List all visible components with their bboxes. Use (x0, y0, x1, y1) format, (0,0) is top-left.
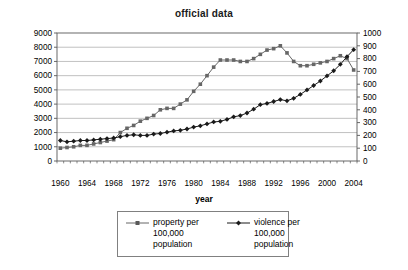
left-axis-tick-label: 0 (47, 157, 52, 166)
data-point-square (225, 58, 229, 62)
data-point-square (239, 60, 243, 64)
data-point-diamond (191, 125, 196, 130)
data-point-square (125, 126, 129, 130)
data-point-diamond (78, 138, 83, 143)
data-point-square (245, 60, 249, 64)
x-axis-tick-label: 2000 (318, 179, 337, 188)
x-axis-title: year (0, 194, 408, 204)
data-point-diamond (178, 128, 183, 133)
data-point-square (79, 144, 83, 148)
legend-label-violence: violence per 100,000 population (254, 217, 318, 250)
data-point-square (279, 44, 283, 48)
data-point-square (72, 145, 76, 149)
data-point-square (292, 60, 296, 64)
x-axis-tick-label: 1984 (211, 179, 230, 188)
data-point-diamond (85, 138, 90, 143)
right-axis-tick-label: 400 (363, 106, 377, 115)
left-axis-tick-label: 8000 (34, 43, 53, 52)
legend-label-property: property per 100,000 population (153, 217, 217, 250)
data-point-square (185, 98, 189, 102)
chart: official data 01000200030004000500060007… (0, 0, 408, 270)
data-point-square (139, 119, 143, 123)
right-axis-tick-label: 200 (363, 131, 377, 140)
x-axis-tick-label: 1964 (78, 179, 97, 188)
data-point-diamond (91, 137, 96, 142)
data-point-square (192, 90, 196, 94)
data-point-square (299, 64, 303, 68)
legend-entry-violence: violence per 100,000 population (227, 217, 318, 250)
x-axis-tick-label: 1960 (51, 179, 70, 188)
left-axis-tick-label: 5000 (34, 86, 53, 95)
data-point-diamond (198, 123, 203, 128)
right-axis-tick-label: 900 (363, 42, 377, 51)
left-axis-tick-label: 3000 (34, 114, 53, 123)
data-point-square (205, 74, 209, 78)
x-axis-tick-label: 1996 (291, 179, 310, 188)
data-point-diamond (245, 111, 250, 116)
data-point-diamond (145, 133, 150, 138)
data-point-diamond (131, 132, 136, 137)
data-point-diamond (138, 133, 143, 138)
data-point-diamond (205, 121, 210, 126)
data-point-diamond (265, 101, 270, 106)
x-axis-tick-label: 1972 (131, 179, 150, 188)
left-axis-tick-label: 1000 (34, 143, 53, 152)
data-point-square (325, 60, 329, 64)
x-axis-tick-label: 1988 (238, 179, 257, 188)
data-point-square (145, 117, 149, 121)
data-point-square (285, 51, 289, 55)
data-point-square (312, 62, 316, 66)
x-axis-tick-label: 1992 (265, 179, 284, 188)
data-point-square (159, 108, 163, 112)
right-axis-tick-label: 700 (363, 67, 377, 76)
data-point-diamond (71, 139, 76, 144)
data-point-square (219, 58, 223, 62)
right-axis-tick-label: 800 (363, 54, 377, 63)
property-series-marker-icon (126, 220, 149, 226)
right-axis-tick-label: 500 (363, 93, 377, 102)
left-axis-tick-label: 4000 (34, 100, 53, 109)
violence-series-marker-icon (227, 220, 250, 226)
data-point-diamond (211, 120, 216, 125)
data-point-square (319, 61, 323, 65)
data-point-square (265, 48, 269, 52)
data-point-diamond (271, 99, 276, 104)
data-point-square (132, 124, 136, 128)
left-axis-tick-label: 7000 (34, 57, 53, 66)
data-point-square (119, 131, 123, 135)
data-point-square (85, 144, 89, 148)
data-point-square (212, 65, 216, 69)
left-axis-tick-label: 2000 (34, 128, 53, 137)
data-point-square (165, 107, 169, 111)
x-axis-tick-label: 1980 (185, 179, 204, 188)
data-point-square (252, 57, 256, 61)
data-point-diamond (125, 133, 130, 138)
data-point-diamond (218, 119, 223, 124)
x-axis-tick-label: 2004 (345, 179, 364, 188)
legend-entry-property: property per 100,000 population (126, 217, 217, 250)
data-point-diamond (285, 98, 290, 103)
x-axis-tick-label: 1976 (158, 179, 177, 188)
data-point-square (65, 146, 69, 150)
data-point-square (152, 114, 156, 118)
data-point-square (332, 57, 336, 61)
data-point-diamond (225, 117, 230, 122)
data-point-square (339, 54, 343, 58)
right-axis-tick-label: 0 (363, 157, 368, 166)
right-axis-tick-label: 1000 (363, 29, 382, 38)
data-point-square (352, 68, 356, 72)
data-point-diamond (165, 130, 170, 135)
data-point-square (272, 47, 276, 51)
right-axis-tick-label: 100 (363, 144, 377, 153)
series-line-violence (60, 50, 353, 142)
data-point-square (199, 82, 203, 86)
right-axis-tick-label: 600 (363, 80, 377, 89)
data-point-diamond (58, 138, 63, 143)
data-point-square (259, 53, 263, 57)
data-point-diamond (158, 131, 163, 136)
data-point-diamond (65, 139, 70, 144)
data-point-square (305, 64, 309, 68)
x-axis-tick-label: 1968 (105, 179, 124, 188)
data-point-square (92, 142, 96, 146)
data-point-square (179, 102, 183, 106)
